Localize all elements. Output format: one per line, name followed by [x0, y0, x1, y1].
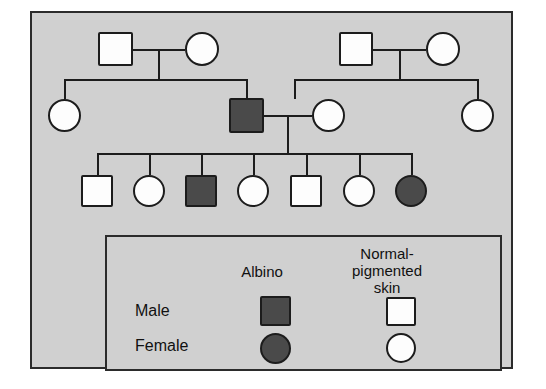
- legend-box: Albino Normal- pigmented skin Male Femal…: [105, 235, 502, 371]
- individual-III-4[interactable]: [237, 175, 269, 207]
- individual-III-3[interactable]: [185, 175, 217, 207]
- legend-swatch-male-normal[interactable]: [386, 297, 416, 326]
- individual-III-7[interactable]: [395, 175, 427, 207]
- legend-swatch-male-albino[interactable]: [260, 296, 291, 326]
- legend-row-label-male: Male: [135, 302, 170, 320]
- individual-III-5[interactable]: [290, 175, 322, 207]
- individual-III-1[interactable]: [81, 175, 113, 207]
- legend-column-header-albino: Albino: [212, 263, 312, 280]
- individual-III-2[interactable]: [133, 175, 165, 207]
- legend-swatch-female-albino[interactable]: [260, 333, 291, 364]
- pedigree-figure: Albino Normal- pigmented skin Male Femal…: [0, 0, 546, 389]
- legend-row-label-female: Female: [135, 337, 188, 355]
- legend-column-header-normal-pigmented-skin: Normal- pigmented skin: [327, 245, 447, 296]
- individual-III-6[interactable]: [343, 175, 375, 207]
- legend-swatch-female-normal[interactable]: [386, 333, 416, 363]
- chart-frame: Albino Normal- pigmented skin Male Femal…: [30, 11, 513, 369]
